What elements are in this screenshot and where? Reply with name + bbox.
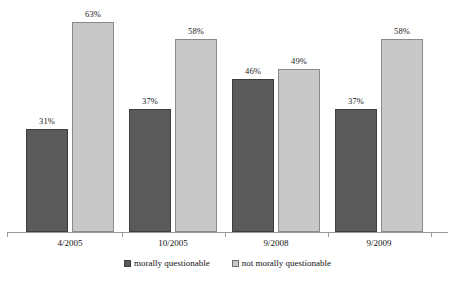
legend-item-1[interactable]: not morally questionable <box>232 258 331 268</box>
bar-rect <box>175 39 217 232</box>
bar-value-label: 58% <box>188 26 204 36</box>
axis-tick <box>431 233 432 237</box>
bar-9-2009-series-1: 58% <box>381 39 423 232</box>
bar-rect <box>278 69 320 232</box>
bar-9-2008-series-0: 46% <box>232 79 274 232</box>
bar-10-2005-series-0: 37% <box>129 109 171 232</box>
plot-area: 31%63%37%58%46%49%37%58% <box>0 0 455 233</box>
x-axis-line <box>7 232 448 233</box>
bar-rect <box>335 109 377 232</box>
legend-label: not morally questionable <box>242 258 331 268</box>
category-label-10-2005: 10/2005 <box>158 238 188 248</box>
bar-value-label: 37% <box>142 96 158 106</box>
legend-label: morally questionable <box>134 258 210 268</box>
bar-value-label: 58% <box>394 26 410 36</box>
bar-rect <box>26 129 68 232</box>
bar-value-label: 49% <box>291 56 307 66</box>
bar-9-2008-series-1: 49% <box>278 69 320 232</box>
legend-item-0[interactable]: morally questionable <box>124 258 210 268</box>
axis-tick <box>7 233 8 237</box>
category-axis-labels: 4/200510/20059/20089/2009 <box>0 238 455 252</box>
bar-value-label: 63% <box>85 9 101 19</box>
bar-value-label: 46% <box>245 66 261 76</box>
bar-rect <box>381 39 423 232</box>
axis-tick <box>122 233 123 237</box>
bar-4-2005-series-1: 63% <box>72 22 114 232</box>
chart-legend: morally questionablenot morally question… <box>0 258 455 268</box>
category-label-9-2009: 9/2009 <box>366 238 391 248</box>
legend-swatch-icon <box>232 260 239 267</box>
category-label-4-2005: 4/2005 <box>57 238 82 248</box>
bar-chart: 31%63%37%58%46%49%37%58% 4/200510/20059/… <box>0 0 455 282</box>
bar-value-label: 31% <box>39 116 55 126</box>
bar-value-label: 37% <box>348 96 364 106</box>
axis-tick <box>328 233 329 237</box>
bar-4-2005-series-0: 31% <box>26 129 68 232</box>
bar-9-2009-series-0: 37% <box>335 109 377 232</box>
bar-rect <box>232 79 274 232</box>
bar-rect <box>72 22 114 232</box>
bar-10-2005-series-1: 58% <box>175 39 217 232</box>
axis-tick <box>225 233 226 237</box>
category-label-9-2008: 9/2008 <box>263 238 288 248</box>
bar-rect <box>129 109 171 232</box>
legend-swatch-icon <box>124 260 131 267</box>
